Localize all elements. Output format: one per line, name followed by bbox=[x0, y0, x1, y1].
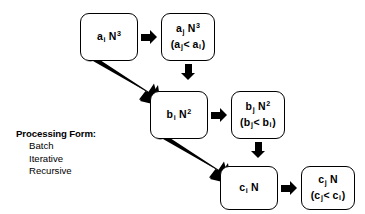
box-ai-n-cubed-expression: aiN3 bbox=[97, 30, 121, 44]
box-aj-n-cubed: ajN3 (aj<ai) bbox=[161, 13, 215, 61]
box-bj-n-squared-expression: bjN2 bbox=[246, 100, 271, 114]
processing-form-legend: Processing Form: Batch Iterative Recursi… bbox=[16, 128, 96, 177]
box-cj-n-expression: cjN bbox=[318, 173, 338, 187]
box-aj-n-cubed-condition: (aj<ai) bbox=[171, 38, 206, 52]
processing-form-label: Processing Form: bbox=[16, 128, 96, 140]
box-bj-n-squared: bjN2 (bj<bi) bbox=[231, 91, 285, 139]
box-aj-n-cubed-expression: ajN3 bbox=[176, 22, 200, 36]
processing-form-item-batch: Batch bbox=[16, 140, 96, 152]
box-bi-n-squared-expression: biN2 bbox=[167, 108, 192, 122]
box-ci-n-expression: ciN bbox=[239, 181, 259, 195]
box-bj-n-squared-condition: (bj<bi) bbox=[240, 116, 276, 130]
box-ci-n: ciN bbox=[220, 166, 278, 210]
diagram-canvas: aiN3 ajN3 (aj<ai) biN2 b bbox=[0, 0, 365, 214]
box-cj-n-condition: (cj<ci) bbox=[311, 189, 346, 203]
box-bi-n-squared: biN2 bbox=[150, 91, 208, 139]
processing-form-item-iterative: Iterative bbox=[16, 153, 96, 165]
box-cj-n: cjN (cj<ci) bbox=[301, 166, 355, 210]
box-ai-n-cubed: aiN3 bbox=[80, 13, 138, 61]
processing-form-item-recursive: Recursive bbox=[16, 165, 96, 177]
